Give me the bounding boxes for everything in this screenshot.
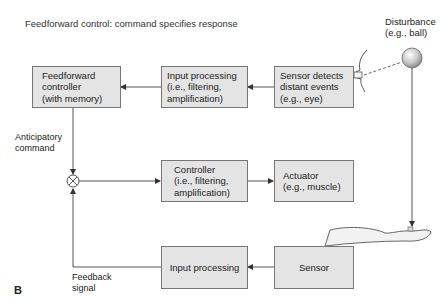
panel-label: B [14, 284, 22, 296]
diagram-title: Feedforward control: command specifies r… [25, 18, 238, 29]
hand-icon [325, 225, 433, 247]
controller-label: Controller (i.e., filtering, amplificati… [174, 164, 230, 199]
sensor-label: Sensor [299, 262, 329, 274]
distant-sensor-label: Sensor detects distant events (e.g., eye… [280, 70, 343, 105]
feedforward-controller-box: Feedforward controller (with memory) [32, 66, 121, 108]
feedforward-controller-label: Feedforward controller (with memory) [42, 70, 102, 105]
ball-icon [402, 48, 422, 68]
actuator-label: Actuator (e.g., muscle) [283, 170, 341, 193]
fb-input-processing-label: Input processing [170, 262, 240, 274]
eye-icon [352, 48, 368, 92]
disturbance-label: Disturbance (e.g., ball) [385, 16, 436, 38]
actuator-box: Actuator (e.g., muscle) [274, 160, 354, 202]
sensor-box: Sensor [274, 246, 354, 289]
ff-input-processing-box: Input processing (i.e., filtering, ampli… [161, 66, 248, 108]
anticipatory-command-label: Anticipatory command [15, 132, 62, 154]
ff-input-processing-label: Input processing (i.e., filtering, ampli… [167, 70, 237, 105]
feedback-signal-label: Feedback signal [72, 272, 112, 294]
fb-input-processing-box: Input processing [161, 246, 248, 289]
distant-sensor-box: Sensor detects distant events (e.g., eye… [274, 66, 354, 108]
controller-box: Controller (i.e., filtering, amplificati… [161, 160, 248, 202]
